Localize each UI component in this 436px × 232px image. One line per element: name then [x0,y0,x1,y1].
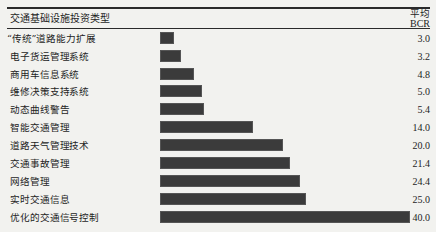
bar [160,139,283,151]
row-label: “传统”道路能力扩展 [7,32,96,45]
row-label: 道路天气管理技术 [10,139,89,152]
header-value-line2: BCR [410,19,430,29]
table-row: 实时交通信息 25.0 [0,193,436,206]
row-label: 交通事故管理 [10,157,69,170]
row-label: 商用车信息系统 [10,68,79,81]
row-label: 网络管理 [10,175,50,188]
bar [160,211,410,223]
row-value: 5.0 [418,85,431,98]
row-label: 优化的交通信号控制 [10,211,99,224]
row-value: 14.0 [413,121,431,134]
row-label: 智能交通管理 [10,121,69,134]
table-row: 智能交通管理 14.0 [0,121,436,134]
header-rule [7,28,430,29]
bar [160,85,202,97]
bar [160,157,290,169]
row-value: 4.8 [418,68,431,81]
row-value: 3.2 [418,50,431,63]
table-row: 网络管理 24.4 [0,175,436,188]
row-value: 20.0 [413,139,431,152]
header-value: 平均 BCR [410,9,430,28]
row-value: 25.0 [413,193,431,206]
top-rule [7,7,430,9]
row-value: 5.4 [418,103,431,116]
row-label: 动态曲线警告 [10,103,69,116]
row-value: 40.0 [413,211,431,224]
row-value: 24.4 [413,175,431,188]
table-row: 电子货运管理系统 3.2 [0,50,436,63]
header-category: 交通基础设施投资类型 [10,13,110,25]
bar [160,121,253,133]
row-label: 实时交通信息 [10,193,69,206]
bar [160,32,174,44]
table-row: “传统”道路能力扩展 3.0 [0,32,436,45]
table-row: 维修决策支持系统 5.0 [0,85,436,98]
table-row: 交通事故管理 21.4 [0,157,436,170]
table-row: 商用车信息系统 4.8 [0,68,436,81]
table-row: 优化的交通信号控制 40.0 [0,211,436,224]
table-row: 动态曲线警告 5.4 [0,103,436,116]
bar [160,175,300,187]
table-row: 道路天气管理技术 20.0 [0,139,436,152]
bar [160,193,306,205]
bar [160,103,204,115]
bar [160,50,181,62]
row-value: 21.4 [413,157,431,170]
row-label: 维修决策支持系统 [10,85,89,98]
row-value: 3.0 [418,32,431,45]
bar [160,68,194,80]
row-label: 电子货运管理系统 [10,50,89,63]
